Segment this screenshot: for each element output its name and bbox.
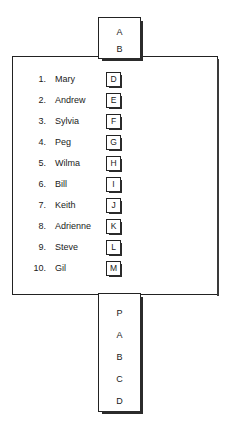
list-item-index: 7. <box>13 200 55 211</box>
list-item-tag-box[interactable]: J <box>106 198 121 213</box>
list-item-name: Gil <box>55 263 106 274</box>
list-item-index: 9. <box>13 242 55 253</box>
list-item-tag-box[interactable]: F <box>106 114 121 129</box>
list-item-name: Mary <box>55 74 106 85</box>
list-item-index: 2. <box>13 95 55 106</box>
list-item-tag-box[interactable]: M <box>106 261 121 276</box>
list-item[interactable]: 2. Andrew E <box>13 90 217 111</box>
list-item-name: Steve <box>55 242 106 253</box>
list-item-tag-box[interactable]: L <box>106 240 121 255</box>
list-item[interactable]: 9. Steve L <box>13 237 217 258</box>
list-item-index: 1. <box>13 74 55 85</box>
list-item-name: Keith <box>55 200 106 211</box>
list-item-index: 4. <box>13 137 55 148</box>
numbered-list: 1. Mary D 2. Andrew E 3. Sylvia F 4. Peg… <box>13 69 217 279</box>
list-item-tag-box[interactable]: I <box>106 177 121 192</box>
list-item-tag-box[interactable]: H <box>106 156 121 171</box>
list-item-index: 8. <box>13 221 55 232</box>
list-item-name: Bill <box>55 179 106 190</box>
list-item-tag-box[interactable]: K <box>106 219 121 234</box>
bottom-node-line-4: D <box>99 396 140 406</box>
list-item-name: Sylvia <box>55 116 106 127</box>
list-item-name: Adrienne <box>55 221 106 232</box>
list-item-tag-box[interactable]: E <box>106 93 121 108</box>
top-node-line-0: A <box>99 27 140 37</box>
list-item-index: 3. <box>13 116 55 127</box>
list-item-name: Andrew <box>55 95 106 106</box>
main-list-panel[interactable]: 1. Mary D 2. Andrew E 3. Sylvia F 4. Peg… <box>12 56 218 295</box>
list-item-tag-box[interactable]: G <box>106 135 121 150</box>
diagram-canvas: A B 1. Mary D 2. Andrew E 3. Sylvia F 4. <box>0 0 231 432</box>
list-item-name: Wilma <box>55 158 106 169</box>
bottom-node-line-3: C <box>99 374 140 384</box>
top-node-line-1: B <box>99 44 140 54</box>
bottom-node-line-0: P <box>99 308 140 318</box>
list-item-tag-box[interactable]: D <box>106 72 121 87</box>
list-item[interactable]: 5. Wilma H <box>13 153 217 174</box>
list-item-index: 5. <box>13 158 55 169</box>
list-item[interactable]: 8. Adrienne K <box>13 216 217 237</box>
bottom-node-line-1: A <box>99 330 140 340</box>
list-item-index: 6. <box>13 179 55 190</box>
list-item[interactable]: 6. Bill I <box>13 174 217 195</box>
list-item[interactable]: 1. Mary D <box>13 69 217 90</box>
list-item[interactable]: 7. Keith J <box>13 195 217 216</box>
list-item[interactable]: 10. Gil M <box>13 258 217 279</box>
bottom-node-line-2: B <box>99 352 140 362</box>
list-item-index: 10. <box>13 263 55 274</box>
list-item-name: Peg <box>55 137 106 148</box>
list-item[interactable]: 4. Peg G <box>13 132 217 153</box>
list-item[interactable]: 3. Sylvia F <box>13 111 217 132</box>
bottom-node-box[interactable]: P A B C D <box>98 293 141 412</box>
top-node-box[interactable]: A B <box>98 17 141 59</box>
